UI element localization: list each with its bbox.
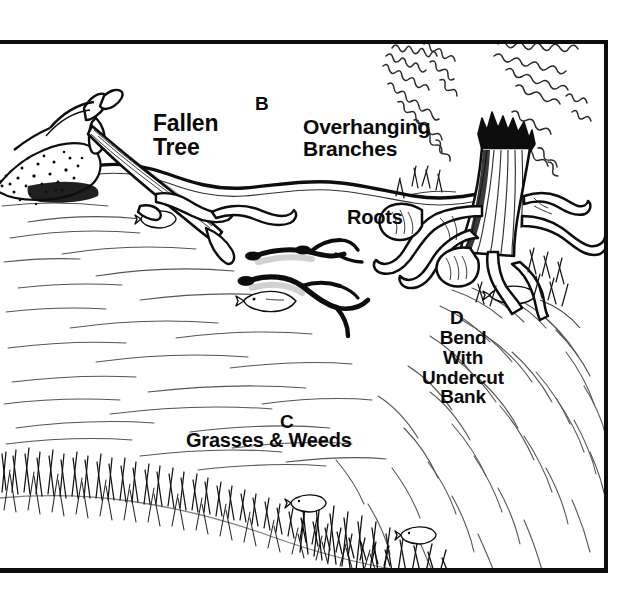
label-overhanging-branches: Overhanging Branches (303, 116, 430, 160)
label-fallen-tree: Fallen Tree (153, 112, 218, 160)
label-bend-with-undercut-bank: Bend With Undercut Bank (415, 328, 511, 407)
label-roots: Roots (347, 207, 403, 228)
stream-habitat-illustration (0, 0, 630, 596)
stream-habitat-figure: B Fallen Tree Overhanging Branches Roots… (0, 0, 630, 596)
key-label-b: B (255, 94, 269, 114)
key-label-d: D (450, 308, 464, 328)
label-grasses-and-weeds: Grasses & Weeds (186, 430, 352, 451)
